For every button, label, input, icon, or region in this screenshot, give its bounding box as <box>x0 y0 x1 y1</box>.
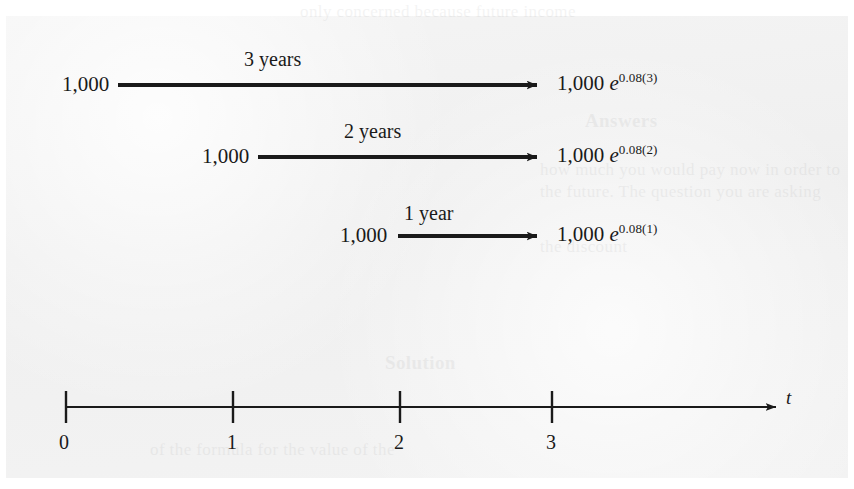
start-value-2-years: 1,000 <box>202 146 249 167</box>
end-value-1-year: 1,000 e0.08(1) <box>557 224 657 245</box>
diagram-vector-layer <box>0 0 854 489</box>
timeline-axis <box>66 391 776 423</box>
end-value-2-years: 1,000 e0.08(2) <box>557 145 657 166</box>
timeline-label-1: 1 <box>227 432 237 452</box>
duration-label-2-years: 2 years <box>344 121 401 141</box>
exponent-1-year: 0.08(1) <box>619 221 658 236</box>
end-value-3-years: 1,000 e0.08(3) <box>557 73 657 94</box>
timeline-variable-label: t <box>786 388 791 407</box>
euler-base-1-year: e <box>610 222 619 246</box>
exponent-2-years: 0.08(2) <box>619 142 658 157</box>
timeline-label-3: 3 <box>546 432 556 452</box>
figure-canvas: only concerned because future income Ans… <box>0 0 854 489</box>
euler-base-2-years: e <box>610 143 619 167</box>
timeline-label-2: 2 <box>394 432 404 452</box>
duration-label-1-year: 1 year <box>404 203 453 223</box>
start-value-1-year: 1,000 <box>340 225 387 246</box>
duration-label-3-years: 3 years <box>244 49 301 69</box>
exponent-3-years: 0.08(3) <box>619 70 658 85</box>
end-amount-2-years: 1,000 <box>557 143 604 167</box>
end-amount-1-year: 1,000 <box>557 222 604 246</box>
end-amount-3-years: 1,000 <box>557 71 604 95</box>
euler-base-3-years: e <box>610 71 619 95</box>
start-value-3-years: 1,000 <box>62 74 109 95</box>
timeline-label-0: 0 <box>59 432 69 452</box>
